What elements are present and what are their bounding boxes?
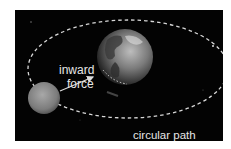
circular-path-label: circular path xyxy=(133,129,196,141)
inward-force-label-line2: force xyxy=(67,78,94,91)
moon xyxy=(28,82,60,114)
earth xyxy=(97,29,153,85)
inward-force-label-line1: inward xyxy=(59,64,94,77)
orbit-diagram xyxy=(15,10,223,141)
shadow-streak xyxy=(107,92,118,96)
diagram-panel: inward force circular path xyxy=(15,10,223,141)
